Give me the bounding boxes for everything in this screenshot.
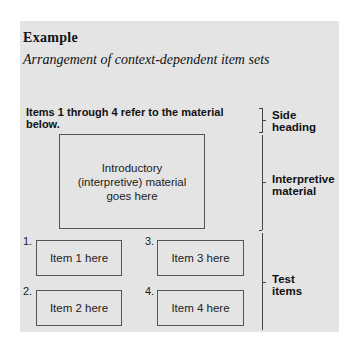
interpretive-material-label: Interpretive material [272, 173, 338, 197]
item-number-2: 2. [23, 285, 32, 297]
item-label-4: Item 4 here [171, 301, 229, 315]
side-heading-label: Side heading [272, 109, 332, 133]
item-label-2: Item 2 here [50, 301, 108, 315]
item-box-4: Item 4 here [157, 290, 244, 326]
item-number-4: 4. [145, 285, 154, 297]
item-box-1: Item 1 here [36, 240, 122, 276]
test-items-label: Test items [272, 273, 312, 297]
interpretive-material-box: Introductory (interpretive) material goe… [59, 134, 205, 229]
item-box-2: Item 2 here [36, 290, 122, 326]
item-number-1: 1. [23, 235, 32, 247]
item-label-3: Item 3 here [171, 251, 229, 265]
item-label-1: Item 1 here [50, 251, 108, 265]
example-subtitle: Arrangement of context-dependent item se… [23, 52, 269, 68]
example-title: Example [23, 30, 78, 46]
side-heading-text: Items 1 through 4 refer to the material … [26, 106, 236, 130]
interpretive-material-text: Introductory (interpretive) material goe… [72, 161, 192, 203]
item-number-3: 3. [145, 235, 154, 247]
item-box-3: Item 3 here [157, 240, 244, 276]
